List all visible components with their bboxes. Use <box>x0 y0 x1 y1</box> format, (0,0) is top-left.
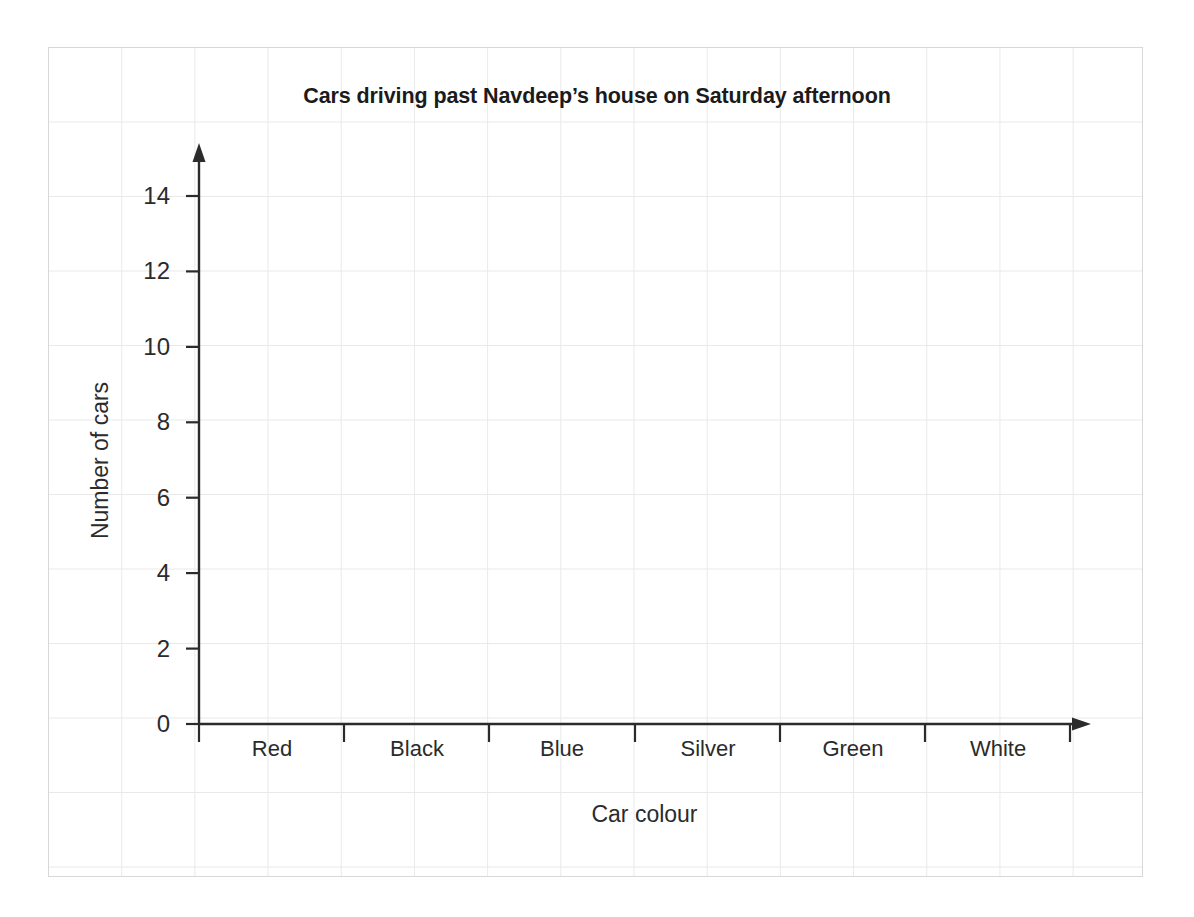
x-tick-label-green: Green <box>780 738 926 760</box>
y-tick-label: 4 <box>110 561 170 585</box>
y-tick-label: 10 <box>110 335 170 359</box>
x-axis-arrow-icon <box>1072 718 1091 731</box>
x-axis-title: Car colour <box>199 801 1090 828</box>
x-tick-label-white: White <box>925 738 1071 760</box>
y-axis-title: Number of cars <box>87 331 114 591</box>
y-tick-label: 2 <box>110 637 170 661</box>
y-tick-label: 0 <box>110 712 170 736</box>
chart-plot-area <box>0 0 1194 917</box>
y-tick-label: 6 <box>110 486 170 510</box>
x-tick-label-red: Red <box>199 738 345 760</box>
y-tick-label: 12 <box>110 259 170 283</box>
y-tick-label: 14 <box>110 184 170 208</box>
x-tick-label-black: Black <box>344 738 490 760</box>
worksheet-page: Cars driving past Navdeep’s house on Sat… <box>0 0 1194 917</box>
x-tick-label-silver: Silver <box>635 738 781 760</box>
x-tick-label-blue: Blue <box>489 738 635 760</box>
y-axis-ticks <box>186 196 199 724</box>
y-axis-arrow-icon <box>193 143 206 162</box>
y-tick-label: 8 <box>110 410 170 434</box>
